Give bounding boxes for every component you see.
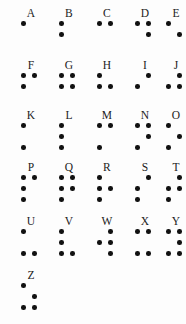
braille-dot-3-empty [97, 95, 102, 100]
braille-dot-6-filled [32, 305, 37, 310]
braille-letter-label: B [52, 6, 86, 20]
braille-dot-2-empty [21, 294, 26, 299]
braille-dot-2-filled [21, 84, 26, 89]
braille-dot-grid [135, 21, 156, 53]
braille-dot-5-filled [177, 32, 182, 37]
braille-dot-grid [166, 123, 186, 155]
braille-dot-3-filled [166, 251, 171, 256]
braille-dot-5-filled [146, 134, 151, 139]
braille-dot-3-filled [135, 145, 140, 150]
braille-letter-label: P [14, 160, 48, 174]
braille-dot-2-filled [59, 240, 64, 245]
braille-cell-f: F [14, 58, 48, 106]
braille-cell-g: G [52, 58, 86, 106]
braille-letter-label: M [90, 108, 124, 122]
braille-dot-5-filled [177, 84, 182, 89]
braille-dot-1-filled [166, 229, 171, 234]
braille-dot-3-empty [166, 95, 171, 100]
braille-dot-3-filled [166, 197, 171, 202]
braille-dot-1-filled [97, 73, 102, 78]
braille-dot-1-empty [97, 229, 102, 234]
braille-dot-3-filled [166, 145, 171, 150]
braille-dot-5-filled [108, 240, 113, 245]
braille-letter-label: O [159, 108, 186, 122]
braille-dot-1-empty [166, 175, 171, 180]
braille-dot-2-filled [97, 240, 102, 245]
braille-dot-5-empty [146, 84, 151, 89]
braille-dot-1-filled [59, 21, 64, 26]
braille-dot-2-filled [97, 84, 102, 89]
braille-dot-1-filled [59, 175, 64, 180]
braille-dot-6-empty [70, 43, 75, 48]
braille-dot-grid [135, 229, 156, 261]
braille-dot-1-filled [97, 123, 102, 128]
braille-dot-1-filled [97, 175, 102, 180]
braille-dot-6-empty [70, 197, 75, 202]
braille-dot-5-empty [32, 32, 37, 37]
braille-letter-label: W [90, 214, 124, 228]
braille-dot-5-filled [32, 294, 37, 299]
braille-dot-1-empty [135, 73, 140, 78]
braille-dot-grid [97, 229, 118, 261]
braille-dot-3-empty [59, 95, 64, 100]
braille-dot-2-filled [97, 186, 102, 191]
braille-cell-z: Z [14, 268, 48, 316]
braille-letter-label: L [52, 108, 86, 122]
braille-dot-5-filled [108, 186, 113, 191]
braille-dot-6-empty [70, 95, 75, 100]
braille-dot-4-filled [70, 175, 75, 180]
braille-cell-j: J [159, 58, 186, 106]
braille-dot-grid [97, 175, 118, 207]
braille-dot-1-filled [21, 175, 26, 180]
braille-dot-3-empty [166, 43, 171, 48]
braille-cell-a: A [14, 6, 48, 54]
braille-dot-4-empty [70, 123, 75, 128]
braille-dot-grid [59, 175, 80, 207]
braille-dot-grid [166, 21, 186, 53]
braille-dot-3-filled [59, 197, 64, 202]
braille-letter-label: D [128, 6, 162, 20]
braille-letter-label: F [14, 58, 48, 72]
braille-dot-4-filled [146, 21, 151, 26]
braille-dot-4-filled [108, 229, 113, 234]
braille-dot-5-filled [177, 186, 182, 191]
braille-dot-6-empty [32, 197, 37, 202]
braille-dot-grid [97, 73, 118, 105]
braille-dot-2-filled [166, 186, 171, 191]
braille-dot-2-empty [166, 240, 171, 245]
braille-dot-1-filled [21, 229, 26, 234]
braille-dot-1-empty [135, 175, 140, 180]
braille-dot-4-filled [146, 175, 151, 180]
braille-letter-label: J [159, 58, 186, 72]
braille-dot-2-empty [21, 240, 26, 245]
braille-dot-4-filled [32, 175, 37, 180]
braille-letter-label: G [52, 58, 86, 72]
braille-dot-2-filled [135, 186, 140, 191]
braille-dot-4-empty [177, 123, 182, 128]
braille-dot-grid [59, 123, 80, 155]
braille-letter-label: X [128, 214, 162, 228]
braille-dot-6-empty [146, 197, 151, 202]
braille-cell-s: S [128, 160, 162, 208]
braille-cell-v: V [52, 214, 86, 262]
braille-dot-grid [59, 73, 80, 105]
braille-dot-4-filled [32, 73, 37, 78]
braille-letter-label: Y [159, 214, 186, 228]
braille-dot-3-filled [21, 145, 26, 150]
braille-dot-4-filled [177, 175, 182, 180]
braille-dot-6-empty [146, 43, 151, 48]
braille-dot-6-empty [177, 43, 182, 48]
braille-dot-3-filled [59, 251, 64, 256]
braille-dot-3-filled [21, 251, 26, 256]
braille-letter-label: S [128, 160, 162, 174]
braille-cell-c: C [90, 6, 124, 54]
braille-dot-grid [166, 175, 186, 207]
braille-dot-5-filled [177, 134, 182, 139]
braille-dot-6-empty [108, 43, 113, 48]
braille-letter-label: Z [14, 268, 48, 282]
braille-dot-3-empty [135, 43, 140, 48]
braille-cell-k: K [14, 108, 48, 156]
braille-cell-l: L [52, 108, 86, 156]
braille-dot-grid [59, 21, 80, 53]
braille-dot-grid [97, 21, 118, 53]
